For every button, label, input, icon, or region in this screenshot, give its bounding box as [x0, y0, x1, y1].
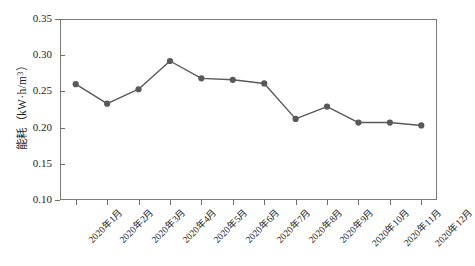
data-point: 2020年8月: 0.212 — [293, 116, 299, 122]
x-tick-mark — [76, 200, 77, 205]
x-tick-mark — [327, 200, 328, 205]
y-tick-label: 0.15 — [22, 158, 52, 169]
x-tick-mark — [358, 200, 359, 205]
data-point: 2020年11月: 0.207 — [387, 119, 393, 125]
x-tick-mark — [390, 200, 391, 205]
data-point: 2020年10月: 0.207 — [355, 119, 361, 125]
series-layer: 2020年1月: 0.262020年2月: 0.2332020年3月: 0.25… — [60, 19, 437, 200]
y-axis-title: 能耗（kW·h/m3） — [10, 5, 32, 205]
x-tick-mark — [139, 200, 140, 205]
x-tick-mark — [296, 200, 297, 205]
x-tick-mark — [233, 200, 234, 205]
y-tick-mark — [55, 200, 60, 201]
y-tick-label: 0.20 — [22, 122, 52, 133]
data-point: 2020年3月: 0.253 — [135, 86, 141, 92]
x-tick-mark — [201, 200, 202, 205]
data-point: 2020年7月: 0.261 — [261, 80, 267, 86]
data-point: 2020年4月: 0.292 — [167, 58, 173, 64]
y-tick-label: 0.25 — [22, 85, 52, 96]
x-tick-mark — [107, 200, 108, 205]
data-point: 2020年2月: 0.233 — [104, 101, 110, 107]
data-point: 2020年6月: 0.266 — [230, 77, 236, 83]
data-point: 2020年1月: 0.26 — [73, 81, 79, 87]
y-tick-label: 0.35 — [22, 13, 52, 24]
x-tick-mark — [264, 200, 265, 205]
x-tick-mark — [170, 200, 171, 205]
y-axis-title-tail: ） — [13, 60, 29, 71]
y-tick-label: 0.30 — [22, 49, 52, 60]
y-tick-label: 0.10 — [22, 194, 52, 205]
data-point: 2020年12月: 0.203 — [418, 122, 424, 128]
x-tick-mark — [421, 200, 422, 205]
data-point: 2020年5月: 0.268 — [198, 75, 204, 81]
data-point: 2020年9月: 0.229 — [324, 104, 330, 110]
series-line — [76, 61, 422, 125]
